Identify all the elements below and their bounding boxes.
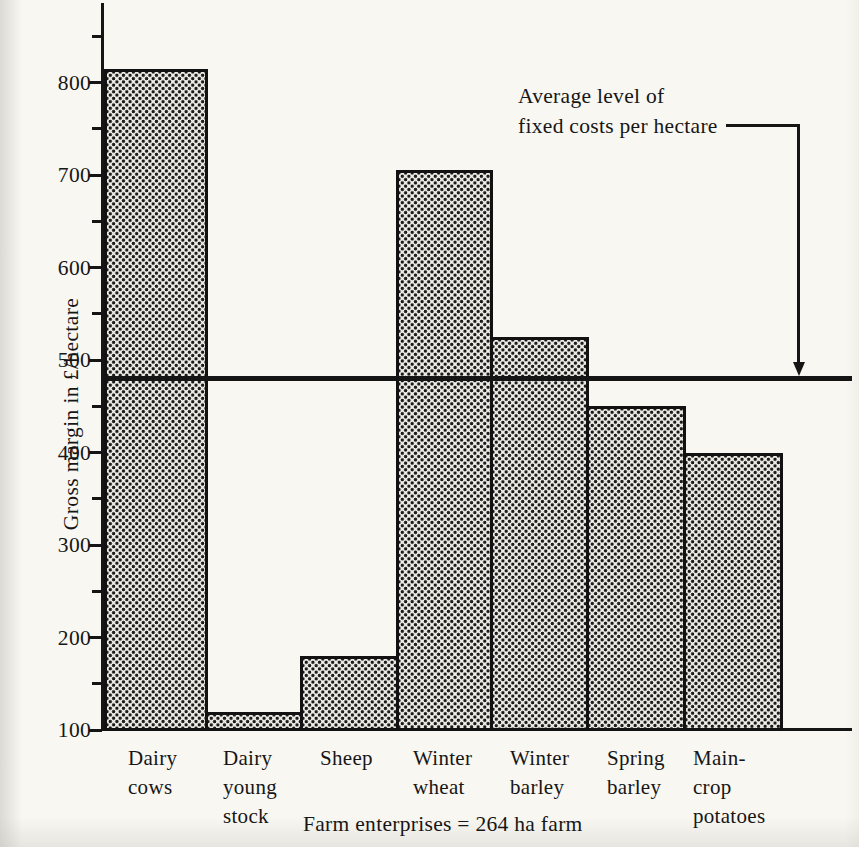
x-category-label-winter-barley: Winterbarley <box>510 744 569 802</box>
y-tick-label-500: 500 <box>27 347 91 373</box>
y-tick-label-600: 600 <box>27 255 91 281</box>
y-tick-label-700: 700 <box>27 162 91 188</box>
x-category-label-line: Main- <box>693 744 765 773</box>
bar-main-crop-potatoes <box>683 453 783 731</box>
reference-line-annotation: Average level of fixed costs per hectare <box>518 82 718 141</box>
x-category-label-sheep: Sheep <box>320 744 373 773</box>
x-category-label-line: Winter <box>413 744 472 773</box>
y-tick-label-400: 400 <box>27 440 91 466</box>
x-category-label-dairy-young-stock: Dairyyoungstock <box>223 744 277 831</box>
x-category-label-line: Spring <box>607 744 665 773</box>
y-minor-tick-650 <box>92 220 102 223</box>
y-minor-tick-450 <box>92 405 102 408</box>
annotation-line-1: Average level of <box>518 82 718 112</box>
x-category-label-line: stock <box>223 802 277 831</box>
y-minor-tick-350 <box>92 497 102 500</box>
annotation-line-2: fixed costs per hectare <box>518 112 718 142</box>
y-minor-tick-150 <box>92 682 102 685</box>
y-tick-label-800: 800 <box>27 70 91 96</box>
x-category-label-line: Dairy <box>223 744 277 773</box>
y-minor-tick-750 <box>92 127 102 130</box>
bar-winter-barley <box>490 337 589 731</box>
y-tick-label-100: 100 <box>27 717 91 743</box>
x-category-label-line: potatoes <box>693 802 765 831</box>
x-category-label-line: barley <box>510 773 569 802</box>
annotation-leader-horizontal <box>726 124 799 127</box>
x-category-label-main-crop-potatoes: Main-croppotatoes <box>693 744 765 831</box>
x-category-label-line: young <box>223 773 277 802</box>
x-category-label-line: crop <box>693 773 765 802</box>
y-tick-label-200: 200 <box>27 625 91 651</box>
x-axis-title: Farm enterprises = 264 ha farm <box>303 812 583 837</box>
annotation-arrowhead-icon <box>793 362 805 376</box>
y-tick-label-300: 300 <box>27 532 91 558</box>
bar-sheep <box>300 656 399 731</box>
x-category-label-line: barley <box>607 773 665 802</box>
y-axis-title: Gross margin in £/hectare <box>59 298 84 530</box>
y-minor-tick-550 <box>92 312 102 315</box>
x-category-label-line: wheat <box>413 773 472 802</box>
x-category-label-line: Dairy <box>128 744 177 773</box>
x-category-label-line: Sheep <box>320 744 373 773</box>
gross-margin-bar-chart: Gross margin in £/hectare Farm enterpris… <box>0 0 859 847</box>
average-fixed-costs-line <box>101 376 852 381</box>
bar-winter-wheat <box>396 170 493 731</box>
x-category-label-dairy-cows: Dairycows <box>128 744 177 802</box>
scanned-book-page: Gross margin in £/hectare Farm enterpris… <box>0 0 859 847</box>
x-category-label-line: cows <box>128 773 177 802</box>
annotation-leader-vertical <box>797 124 800 362</box>
x-category-label-spring-barley: Springbarley <box>607 744 665 802</box>
y-minor-tick-850 <box>92 35 102 38</box>
x-category-label-winter-wheat: Winterwheat <box>413 744 472 802</box>
x-category-label-line: Winter <box>510 744 569 773</box>
y-minor-tick-250 <box>92 590 102 593</box>
bar-dairy-young-stock <box>205 712 303 731</box>
bar-dairy-cows <box>104 69 208 731</box>
bar-spring-barley <box>586 406 686 731</box>
